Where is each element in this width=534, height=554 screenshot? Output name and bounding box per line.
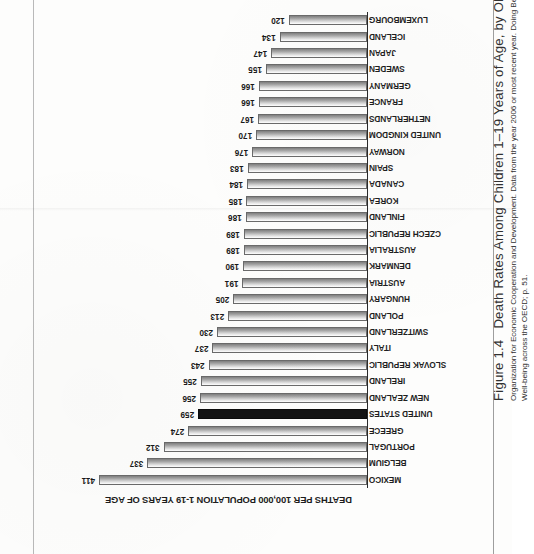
bar-category-label: SWEDEN <box>369 64 405 74</box>
bar-row: KOREA185 <box>36 193 421 209</box>
bar <box>188 426 367 436</box>
plot-area: MEXICO411BELGIUM337PORTUGAL312GREECE274U… <box>36 12 421 488</box>
bar-row: NEW ZEALAND256 <box>36 390 421 406</box>
bar-row: JAPAN147 <box>36 45 421 61</box>
bar-category-label: BELGIUM <box>369 458 407 468</box>
bar-row: NORWAY176 <box>36 143 421 159</box>
bar-row: CZECH REPUBLIC189 <box>36 225 421 241</box>
bar-row: ICELAND134 <box>36 28 421 44</box>
bar-value-label: 134 <box>262 32 279 41</box>
bar-value-label: 189 <box>226 229 243 238</box>
bar-category-label: ITALY <box>369 344 391 354</box>
bar-value-label: 186 <box>228 213 245 222</box>
bar <box>247 179 367 189</box>
bar-category-label: IRELAND <box>369 376 405 386</box>
bar-category-label: LUXEMBOURG <box>369 15 428 25</box>
bar-row: AUSTRIA191 <box>36 275 421 291</box>
bar-category-label: UNITED KINGDOM <box>369 130 441 140</box>
bar <box>200 393 367 403</box>
bar-category-label: ICELAND <box>369 32 405 42</box>
bar-category-label: SWITZERLAND <box>369 327 428 337</box>
bar-category-label: GREECE <box>369 426 403 436</box>
bar-category-label: AUSTRIA <box>369 278 405 288</box>
bar-row: CANADA184 <box>36 176 421 192</box>
bar-category-label: CANADA <box>369 179 404 189</box>
bar-chart: DEATHS PER 100,000 POPULATION 1-19 YEARS… <box>36 8 421 508</box>
bar-row: UNITED KINGDOM170 <box>36 127 421 143</box>
bar-category-label: NORWAY <box>369 147 405 157</box>
bar-category-label: CZECH REPUBLIC <box>369 229 441 239</box>
bar <box>258 114 367 124</box>
bar-category-label: DENMARK <box>369 261 411 271</box>
bar-row: ITALY237 <box>36 340 421 356</box>
bar <box>217 327 367 337</box>
bar-category-label: HUNGARY <box>369 294 410 304</box>
bar <box>252 147 367 157</box>
figure-source-line-1: Organization for Economic Cooperation an… <box>509 0 518 401</box>
bar-category-label: SLOVAK REPUBLIC <box>369 360 446 370</box>
bar <box>242 278 367 288</box>
bar-category-label: GERMANY <box>369 81 411 91</box>
bar-value-label: 185 <box>229 196 246 205</box>
bar-value-label: 184 <box>229 180 246 189</box>
bar <box>201 376 367 386</box>
bar-category-label: FINLAND <box>369 212 405 222</box>
bar-row: SLOVAK REPUBLIC243 <box>36 357 421 373</box>
bar-row: NETHERLANDS167 <box>36 111 421 127</box>
bar-value-label: 167 <box>240 114 257 123</box>
bar-row: BELGIUM337 <box>36 455 421 471</box>
bar <box>280 32 367 42</box>
bar-category-label: AUSTRALIA <box>369 245 416 255</box>
bar-row: SWEDEN155 <box>36 61 421 77</box>
bar <box>212 344 367 354</box>
bar-row: GREECE274 <box>36 422 421 438</box>
bar-category-label: NEW ZEALAND <box>369 393 429 403</box>
bar-value-label: 170 <box>238 131 255 140</box>
bar-value-label: 189 <box>226 246 243 255</box>
bar <box>243 261 367 271</box>
bar <box>244 245 367 255</box>
bar-row: AUSTRALIA189 <box>36 242 421 258</box>
bar-value-label: 255 <box>183 377 200 386</box>
bar-row: PORTUGAL312 <box>36 439 421 455</box>
figure-title: Death Rates Among Children 1–19 Years of… <box>491 0 506 329</box>
bar <box>198 409 367 419</box>
bar <box>248 163 367 173</box>
bar-value-label: 183 <box>230 163 247 172</box>
figure-number: Figure 1.4 <box>491 340 506 401</box>
bar-value-label: 190 <box>225 262 242 271</box>
bar-value-label: 120 <box>271 16 288 25</box>
bar-value-label: 213 <box>210 311 227 320</box>
bar-value-label: 155 <box>248 65 265 74</box>
bar <box>99 475 367 485</box>
bar-category-label: MEXICO <box>369 475 401 485</box>
bar <box>246 212 367 222</box>
bar-value-label: 205 <box>216 295 233 304</box>
bar-category-label: PORTUGAL <box>369 442 415 452</box>
bar-value-label: 274 <box>171 426 188 435</box>
bar <box>244 229 367 239</box>
bar-row: SPAIN183 <box>36 160 421 176</box>
bar-value-label: 256 <box>182 393 199 402</box>
bar <box>271 48 367 58</box>
bar-value-label: 337 <box>130 459 147 468</box>
bar-value-label: 312 <box>146 442 163 451</box>
bar-row: SWITZERLAND230 <box>36 324 421 340</box>
bar-row: LUXEMBOURG120 <box>36 12 421 28</box>
bar-value-label: 176 <box>235 147 252 156</box>
bar-row: FRANCE166 <box>36 94 421 110</box>
bar <box>246 196 367 206</box>
bar <box>259 81 367 91</box>
bar-category-label: FRANCE <box>369 97 403 107</box>
bar-value-label: 166 <box>241 98 258 107</box>
figure-source-line-2: Well-being across the OECD; p. 51. <box>520 0 529 401</box>
bar <box>209 360 367 370</box>
bar-row: MEXICO411 <box>36 472 421 488</box>
bar-row: UNITED STATES259 <box>36 406 421 422</box>
bar-category-label: POLAND <box>369 311 403 321</box>
bar-row: DENMARK190 <box>36 258 421 274</box>
bar-value-label: 411 <box>82 475 98 484</box>
bar-value-label: 191 <box>225 278 242 287</box>
bar-row: FINLAND186 <box>36 209 421 225</box>
bar-row: IRELAND255 <box>36 373 421 389</box>
